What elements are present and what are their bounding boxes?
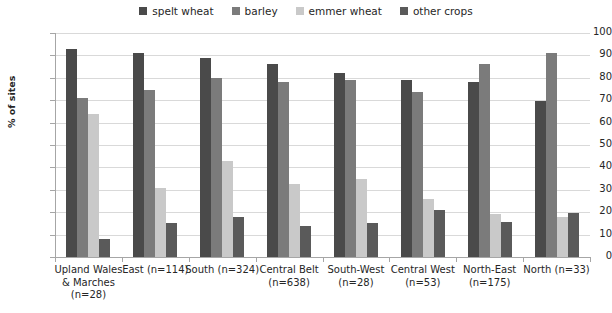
bar[interactable] (334, 73, 345, 257)
plot-area (55, 33, 590, 257)
bar[interactable] (546, 53, 557, 257)
bar[interactable] (77, 98, 88, 257)
legend-item-barley: barley (232, 6, 278, 17)
bar[interactable] (88, 114, 99, 257)
legend-label: barley (245, 6, 278, 17)
bar[interactable] (423, 199, 434, 257)
bar-group (389, 33, 456, 257)
bar-group (55, 33, 122, 257)
legend-label: emmer wheat (309, 6, 382, 17)
x-tick-mark (590, 257, 591, 262)
bar[interactable] (278, 82, 289, 257)
bar[interactable] (568, 213, 579, 257)
bar[interactable] (211, 78, 222, 257)
bar[interactable] (367, 223, 378, 257)
legend-item-emmer-wheat: emmer wheat (296, 6, 382, 17)
bar-group (122, 33, 189, 257)
x-axis-label-line: (n=28) (49, 289, 128, 302)
x-tick-mark (122, 257, 123, 262)
x-tick-mark (389, 257, 390, 262)
bar[interactable] (267, 64, 278, 257)
bar[interactable] (345, 80, 356, 257)
bar[interactable] (133, 53, 144, 257)
bar[interactable] (289, 184, 300, 257)
legend-item-spelt-wheat: spelt wheat (139, 6, 213, 17)
bar-group (323, 33, 390, 257)
legend-swatch-icon (139, 7, 147, 15)
bar[interactable] (557, 217, 568, 257)
bar[interactable] (222, 161, 233, 257)
bar[interactable] (300, 226, 311, 257)
legend-item-other-crops: other crops (400, 6, 473, 17)
bar[interactable] (412, 92, 423, 257)
legend-swatch-icon (296, 7, 304, 15)
bar-group (189, 33, 256, 257)
bar[interactable] (401, 80, 412, 257)
bar[interactable] (535, 101, 546, 257)
bar[interactable] (356, 179, 367, 257)
y-axis-line (55, 33, 56, 258)
bar[interactable] (468, 82, 479, 257)
legend-label: spelt wheat (152, 6, 213, 17)
x-axis-label: North (n=33) (517, 264, 596, 277)
legend-swatch-icon (400, 7, 408, 15)
bar-group (456, 33, 523, 257)
bar-chart: spelt wheat barley emmer wheat other cro… (0, 0, 612, 313)
y-axis-title: % of sites (6, 76, 17, 128)
bar[interactable] (200, 58, 211, 257)
chart-legend: spelt wheat barley emmer wheat other cro… (0, 6, 612, 17)
x-tick-mark (55, 257, 56, 262)
bar[interactable] (66, 49, 77, 257)
bar[interactable] (99, 239, 110, 257)
x-tick-mark (189, 257, 190, 262)
x-axis-label-line: & Marches (49, 277, 128, 290)
bar[interactable] (166, 223, 177, 257)
bar[interactable] (155, 188, 166, 257)
bar-group (523, 33, 590, 257)
bar[interactable] (434, 210, 445, 257)
x-axis-label-line: North (n=33) (517, 264, 596, 277)
bar[interactable] (479, 64, 490, 257)
bar[interactable] (501, 222, 512, 257)
x-tick-mark (256, 257, 257, 262)
bar[interactable] (233, 217, 244, 257)
x-tick-mark (523, 257, 524, 262)
bar[interactable] (144, 90, 155, 257)
x-tick-mark (323, 257, 324, 262)
x-axis-label-line: (n=175) (450, 277, 529, 290)
legend-label: other crops (413, 6, 473, 17)
x-tick-mark (456, 257, 457, 262)
legend-swatch-icon (232, 7, 240, 15)
bar-group (256, 33, 323, 257)
bar[interactable] (490, 214, 501, 257)
